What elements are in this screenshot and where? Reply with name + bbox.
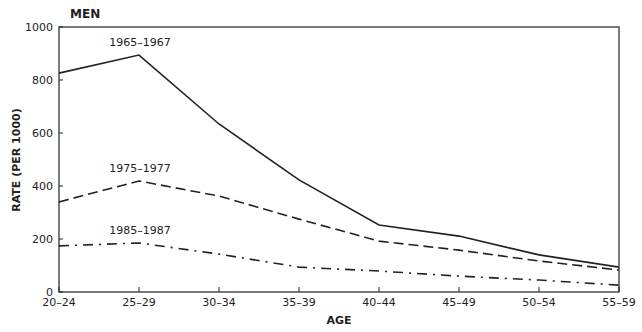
- x-axis: 20–2425–2930–3435–3940–4445–4950–5455–59: [42, 287, 636, 309]
- y-tick-label: 1000: [25, 21, 53, 34]
- x-tick-label: 45–49: [442, 296, 476, 309]
- y-tick-label: 200: [32, 233, 53, 246]
- y-tick-label: 800: [32, 74, 53, 87]
- y-tick-label: 600: [32, 127, 53, 140]
- y-axis: 02004006008001000: [25, 21, 63, 299]
- plot-frame: [59, 27, 619, 292]
- series-labels: 1965–19671975–19771985–1987: [109, 36, 171, 237]
- x-tick-label: 20–24: [42, 296, 76, 309]
- x-tick-label: 40–44: [362, 296, 396, 309]
- series-label: 1975–1977: [109, 162, 171, 175]
- x-tick-label: 35–39: [282, 296, 316, 309]
- series-line: [59, 243, 619, 285]
- series-label: 1965–1967: [109, 36, 171, 49]
- y-axis-label: RATE (PER 1000): [10, 108, 23, 212]
- y-tick-label: 400: [32, 180, 53, 193]
- chart-title: MEN: [70, 7, 100, 21]
- x-tick-label: 50–54: [522, 296, 556, 309]
- x-tick-label: 30–34: [202, 296, 236, 309]
- line-chart: MEN 02004006008001000 20–2425–2930–3435–…: [0, 0, 642, 332]
- x-axis-label: AGE: [326, 314, 351, 327]
- series-label: 1985–1987: [109, 224, 171, 237]
- x-tick-label: 55–59: [602, 296, 636, 309]
- x-tick-label: 25–29: [122, 296, 156, 309]
